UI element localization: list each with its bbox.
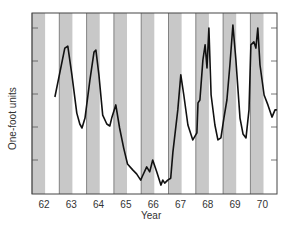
year-band-64 <box>87 13 100 194</box>
shaded-year-bands <box>32 13 264 194</box>
x-tick-label: 66 <box>148 199 160 210</box>
year-band-67 <box>169 13 182 194</box>
x-axis-label: Year <box>141 210 161 221</box>
year-band-62 <box>32 13 45 194</box>
chart-canvas: 626364656667686970 <box>0 0 287 230</box>
x-tick-label: 70 <box>257 199 269 210</box>
x-tick-label: 69 <box>230 199 242 210</box>
x-tick-label: 64 <box>93 199 105 210</box>
year-band-65 <box>114 13 127 194</box>
x-tick-label: 65 <box>120 199 132 210</box>
x-tick-label: 68 <box>202 199 214 210</box>
x-tick-label: 62 <box>38 199 50 210</box>
x-tick-label: 63 <box>66 199 78 210</box>
y-axis-label: One-foot units <box>7 87 18 150</box>
year-band-66 <box>141 13 154 194</box>
x-axis-tick-labels: 626364656667686970 <box>38 199 268 210</box>
x-tick-label: 67 <box>175 199 187 210</box>
year-band-63 <box>59 13 72 194</box>
line-chart: 626364656667686970 One-foot units Year <box>0 0 287 230</box>
